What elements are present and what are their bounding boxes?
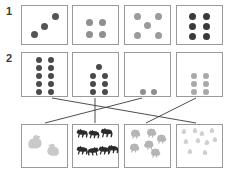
dot xyxy=(102,73,108,79)
dot xyxy=(144,22,151,29)
dot xyxy=(203,73,209,79)
dot xyxy=(102,81,108,87)
dot xyxy=(48,81,54,87)
horse-icon xyxy=(106,144,120,156)
dot xyxy=(140,89,146,95)
dot-card-2-1[interactable] xyxy=(21,52,68,97)
dot-card-1-1[interactable] xyxy=(21,5,68,45)
dot xyxy=(99,31,106,38)
dot xyxy=(48,73,54,79)
animal-card-chickens[interactable] xyxy=(21,124,68,168)
dot xyxy=(102,89,108,95)
dot-card-2-3[interactable] xyxy=(124,52,171,97)
sheep-icon xyxy=(155,133,169,145)
animal-card-horses[interactable] xyxy=(72,124,119,168)
animal-card-sheep[interactable] xyxy=(124,124,171,168)
chick-icon xyxy=(192,137,202,145)
chick-icon xyxy=(211,136,221,144)
dot xyxy=(41,23,48,30)
match-line-6-to-sheep xyxy=(146,98,196,123)
dot xyxy=(48,57,54,63)
worksheet-page: 1 2 xyxy=(0,0,227,171)
dot xyxy=(31,31,38,38)
dot xyxy=(189,23,196,30)
dot xyxy=(48,65,54,71)
exercise-number-2: 2 xyxy=(6,53,12,64)
match-line-10-to-chicks xyxy=(52,98,196,123)
dot xyxy=(86,31,93,38)
dot xyxy=(203,89,209,95)
dot-card-2-2[interactable] xyxy=(72,52,119,97)
dot xyxy=(191,89,197,95)
dot xyxy=(90,73,96,79)
dot xyxy=(96,64,102,70)
dot xyxy=(36,89,42,95)
horse-icon xyxy=(99,127,114,140)
exercise-number-1: 1 xyxy=(6,6,12,17)
dot xyxy=(90,81,96,87)
dot xyxy=(90,89,96,95)
dot xyxy=(52,13,59,20)
chick-icon xyxy=(182,138,192,146)
chicken-icon xyxy=(42,142,61,158)
dot xyxy=(36,81,42,87)
dot xyxy=(191,73,197,79)
dot xyxy=(189,13,196,20)
dot xyxy=(155,32,162,39)
chick-icon xyxy=(186,148,196,156)
dot xyxy=(151,89,157,95)
dot xyxy=(203,13,210,20)
dot xyxy=(191,81,197,87)
dot-card-1-2[interactable] xyxy=(72,5,119,45)
dot xyxy=(189,33,196,40)
dot xyxy=(203,33,210,40)
dot-card-1-4[interactable] xyxy=(176,5,223,45)
dot xyxy=(203,81,209,87)
dot xyxy=(134,32,141,39)
dot xyxy=(99,19,106,26)
dot-card-2-4[interactable] xyxy=(176,52,223,97)
animal-card-chicks[interactable] xyxy=(176,124,223,168)
dot xyxy=(36,65,42,71)
dot xyxy=(155,13,162,20)
sheep-icon xyxy=(149,147,163,159)
dot xyxy=(203,23,210,30)
match-line-2-to-chickens xyxy=(45,98,142,123)
dot xyxy=(86,19,93,26)
dot xyxy=(48,89,54,95)
dot xyxy=(36,57,42,63)
dot-card-1-3[interactable] xyxy=(124,5,171,45)
dot xyxy=(36,73,42,79)
dot xyxy=(134,13,141,20)
chick-icon xyxy=(199,149,209,157)
chick-icon xyxy=(208,127,218,135)
